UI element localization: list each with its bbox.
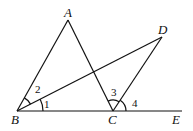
point-label-A: A — [63, 5, 72, 20]
angle-label-1: 1 — [44, 98, 50, 110]
angle-label-4: 4 — [132, 97, 138, 109]
point-label-B: B — [11, 112, 19, 127]
angle-arc-3 — [108, 100, 119, 102]
angle-arc-2 — [24, 98, 30, 104]
segment-BD — [17, 37, 162, 111]
angle-arc-4 — [120, 100, 126, 111]
angle-arc-1 — [40, 99, 43, 111]
point-label-D: D — [157, 22, 168, 37]
geometry-diagram: A D B C E 1 2 3 4 — [0, 0, 193, 131]
point-label-E: E — [171, 112, 180, 127]
angle-label-3: 3 — [111, 86, 117, 98]
segment-CD — [113, 37, 162, 111]
point-label-C: C — [108, 112, 117, 127]
angle-label-2: 2 — [35, 83, 41, 95]
